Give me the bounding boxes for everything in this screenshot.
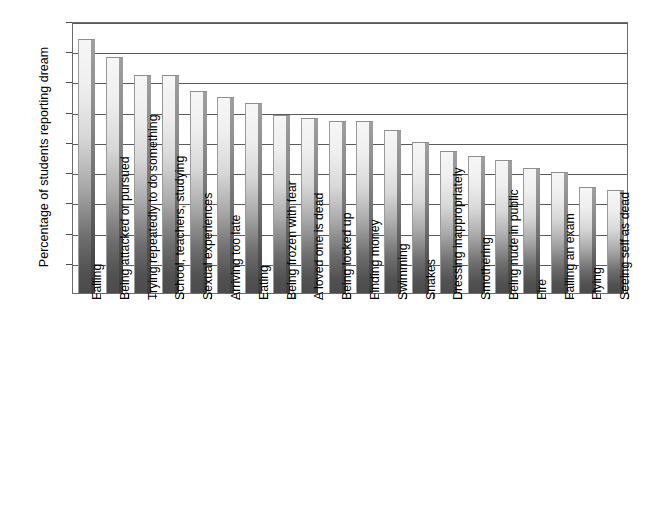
- footer-caption: [0, 496, 648, 510]
- bar: [523, 168, 540, 293]
- x-axis-category-label: Being frozen with fear: [286, 181, 298, 300]
- bar-chart-figure: Percentage of students reporting dream 1…: [0, 0, 648, 510]
- x-axis-category-label: A loved one is dead: [313, 193, 325, 300]
- x-axis-category-label: Seeing self as dead: [619, 192, 631, 300]
- x-axis-category-label: Dressing inappropriately: [452, 167, 464, 300]
- x-axis-category-label: Eating: [258, 265, 270, 300]
- x-axis-category-label: Trying repeatedly to do something: [147, 115, 159, 300]
- x-axis-category-label: Swimming: [397, 243, 409, 300]
- gridline: [73, 23, 627, 24]
- bar-shade: [536, 169, 540, 293]
- x-axis-category-label: Being nude in public: [508, 189, 520, 300]
- x-axis-category-label: Sexual experiences: [202, 193, 214, 300]
- x-axis-category-label: Failing an exam: [564, 213, 576, 300]
- gridline: [73, 83, 627, 84]
- x-axis-category-label: Arriving too late: [230, 215, 242, 300]
- x-axis-category-label: Flying: [591, 267, 603, 300]
- x-axis-category-label: Snakes: [425, 259, 437, 300]
- x-axis-category-label: Fire: [536, 279, 548, 300]
- x-axis-category-label: Smothering: [480, 237, 492, 300]
- x-axis-category-label: School, teachers, studying: [174, 156, 186, 300]
- gridline: [73, 53, 627, 54]
- x-axis-category-label: Finding money: [369, 219, 381, 300]
- x-axis-category-label: Falling: [91, 264, 103, 300]
- y-axis-title: Percentage of students reporting dream: [37, 12, 51, 302]
- x-axis-category-label: Being attacked or pursued: [119, 156, 131, 300]
- bar: [78, 39, 95, 293]
- x-axis-category-label: Being locked up: [341, 212, 353, 300]
- bar-shade: [91, 40, 95, 293]
